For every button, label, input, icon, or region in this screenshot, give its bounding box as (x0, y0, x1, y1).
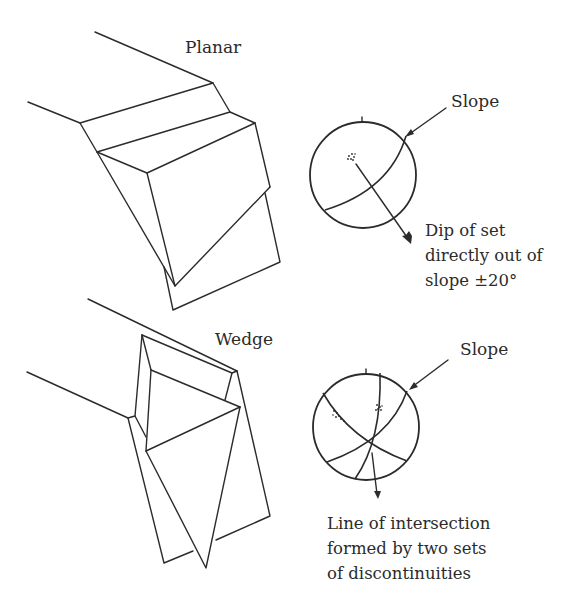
set2-great-circle (355, 373, 380, 479)
planar-title: Planar (185, 39, 241, 56)
slope-great-circle (325, 136, 406, 210)
pole-cluster (347, 153, 356, 161)
wedge-slope-label: Slope (460, 341, 508, 358)
set1-great-circle (323, 393, 407, 461)
planar-caption-line-1: Dip of set (425, 218, 543, 243)
intersection-arrow (372, 453, 377, 494)
wedge-title: Wedge (215, 331, 273, 348)
wedge-stereonet (313, 360, 448, 499)
planar-caption-line-2: directly out of (425, 243, 543, 268)
arrowhead-icon (374, 491, 381, 499)
wedge-caption-line-3: of discontinuities (327, 561, 490, 586)
figure-canvas: Planar Slope Dip of set directly out of … (0, 0, 571, 610)
wedge-caption-line-2: formed by two sets (327, 536, 490, 561)
planar-slope-label: Slope (451, 93, 499, 110)
planar-caption: Dip of set directly out of slope ±20° (425, 218, 543, 293)
slope-pointer-arrow (412, 360, 448, 387)
planar-block-drawing (28, 32, 280, 310)
wedge-caption-line-1: Line of intersection (327, 511, 490, 536)
wedge-caption: Line of intersection formed by two sets … (327, 511, 490, 586)
planar-caption-line-3: slope ±20° (425, 268, 543, 293)
slope-pointer-arrow (408, 108, 446, 135)
slope-great-circle (327, 391, 407, 462)
